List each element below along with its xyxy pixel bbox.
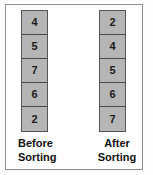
list-item: 4 [100, 35, 125, 59]
cell-value: 6 [109, 89, 115, 100]
list-item: 2 [22, 107, 47, 131]
list-item: 7 [100, 107, 125, 131]
cell-value: 4 [109, 41, 115, 52]
list-item: 6 [22, 83, 47, 107]
after-sorting-column: 2 4 5 6 7 [99, 10, 126, 132]
list-item: 4 [22, 11, 47, 35]
list-item: 6 [100, 83, 125, 107]
cell-value: 7 [109, 114, 115, 125]
caption-line-2: Sorting [94, 150, 140, 164]
after-sorting-caption: After Sorting [94, 136, 140, 164]
caption-line-2: Sorting [18, 150, 57, 164]
cell-value: 7 [31, 65, 37, 76]
cell-value: 5 [31, 41, 37, 52]
cell-value: 2 [31, 114, 37, 125]
cell-value: 2 [109, 17, 115, 28]
sorting-figure: 4 5 7 6 2 2 4 5 6 7 Before [0, 0, 153, 175]
caption-line-1: Before [18, 136, 57, 150]
before-sorting-column: 4 5 7 6 2 [21, 10, 48, 132]
caption-line-1: After [94, 136, 140, 150]
cell-value: 4 [31, 17, 37, 28]
list-item: 2 [100, 11, 125, 35]
list-item: 7 [22, 59, 47, 83]
before-sorting-caption: Before Sorting [18, 136, 57, 164]
list-item: 5 [100, 59, 125, 83]
cell-value: 5 [109, 65, 115, 76]
cell-value: 6 [31, 89, 37, 100]
list-item: 5 [22, 35, 47, 59]
